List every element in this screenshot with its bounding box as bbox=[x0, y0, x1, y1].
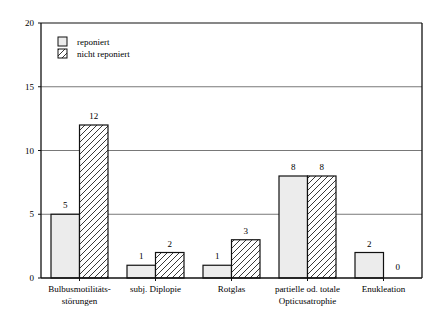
legend-label: reponiert bbox=[77, 37, 110, 47]
legend-label: nicht reponiert bbox=[77, 49, 130, 59]
value-label: 5 bbox=[63, 200, 68, 210]
legend-swatch-nicht-reponiert bbox=[58, 49, 67, 58]
value-label: 1 bbox=[139, 251, 144, 261]
value-label: 1 bbox=[215, 251, 220, 261]
value-label: 0 bbox=[396, 262, 401, 272]
bar-nicht-reponiert bbox=[308, 176, 337, 278]
bar-reponiert bbox=[127, 265, 156, 278]
category-label: partielle od. totale bbox=[275, 284, 340, 294]
value-label: 8 bbox=[291, 162, 296, 172]
y-tick-label: 10 bbox=[25, 146, 35, 156]
bar-reponiert bbox=[355, 253, 384, 279]
value-label: 3 bbox=[244, 226, 249, 236]
bar-nicht-reponiert bbox=[80, 125, 109, 278]
y-tick-label: 0 bbox=[30, 273, 35, 283]
bar-nicht-reponiert bbox=[156, 253, 185, 279]
legend-swatch-reponiert bbox=[58, 37, 67, 46]
category-label: Opticusatrophie bbox=[279, 296, 337, 306]
y-tick-label: 5 bbox=[30, 209, 35, 219]
bar-nicht-reponiert bbox=[232, 240, 261, 278]
bar-reponiert bbox=[279, 176, 308, 278]
value-label: 8 bbox=[320, 162, 325, 172]
bar-reponiert bbox=[51, 214, 80, 278]
category-label: subj. Diplopie bbox=[130, 284, 181, 294]
value-label: 12 bbox=[89, 111, 98, 121]
bar-chart: 05101520512Bulbusmotilitäts-störungen12s… bbox=[0, 0, 444, 323]
value-label: 2 bbox=[168, 239, 173, 249]
legend: reponiertnicht reponiert bbox=[58, 37, 130, 59]
bar-reponiert bbox=[203, 265, 232, 278]
category-label: Bulbusmotilitäts- bbox=[48, 284, 111, 294]
y-tick-label: 20 bbox=[25, 18, 35, 28]
category-label: Rotglas bbox=[218, 284, 246, 294]
category-label: Enukleation bbox=[362, 284, 406, 294]
value-label: 2 bbox=[367, 239, 372, 249]
category-label: störungen bbox=[62, 296, 98, 306]
y-tick-label: 15 bbox=[25, 82, 35, 92]
